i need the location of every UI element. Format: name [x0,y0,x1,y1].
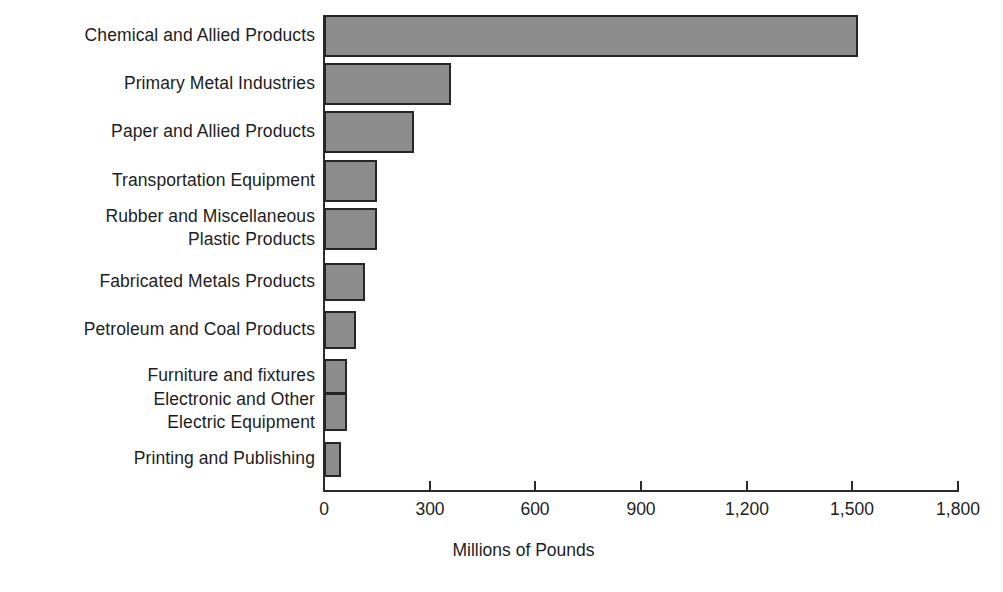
x-axis-tick-label: 1,800 [936,498,980,520]
category-label: Chemical and Allied Products [0,24,315,47]
x-axis-tick-label: 1,200 [725,498,769,520]
category-label: Fabricated Metals Products [0,270,315,293]
category-label: Primary Metal Industries [0,72,315,95]
x-axis-tick [640,481,642,492]
x-axis-tick [323,481,325,492]
bar [324,111,414,153]
bar [324,160,377,202]
bar [324,442,341,477]
x-axis-tick-label: 900 [626,498,655,520]
bar [324,263,365,301]
bar [324,208,377,250]
x-axis-tick-label: 300 [415,498,444,520]
x-axis-tick-label: 600 [520,498,549,520]
x-axis-tick [746,481,748,492]
x-axis-tick-label: 0 [319,498,329,520]
x-axis-tick [957,481,959,492]
bar [324,15,858,57]
x-axis-tick [429,481,431,492]
category-label: Electronic and Other Electric Equipment [0,388,315,434]
category-label: Petroleum and Coal Products [0,318,315,341]
x-axis-tick-label: 1,500 [830,498,874,520]
category-label: Furniture and fixtures [0,364,315,387]
bar [324,311,356,349]
category-label: Rubber and Miscellaneous Plastic Product… [0,205,315,251]
x-axis-title: Millions of Pounds [0,540,1003,561]
category-label: Paper and Allied Products [0,120,315,143]
bar [324,359,347,394]
x-axis-tick [851,481,853,492]
bar [324,393,347,431]
plot-area [323,15,963,490]
category-label: Printing and Publishing [0,447,315,470]
x-axis-tick [534,481,536,492]
category-label: Transportation Equipment [0,169,315,192]
bar [324,63,451,105]
category-axis-labels: Chemical and Allied ProductsPrimary Meta… [0,15,315,490]
bar-chart: Chemical and Allied ProductsPrimary Meta… [0,0,1003,592]
